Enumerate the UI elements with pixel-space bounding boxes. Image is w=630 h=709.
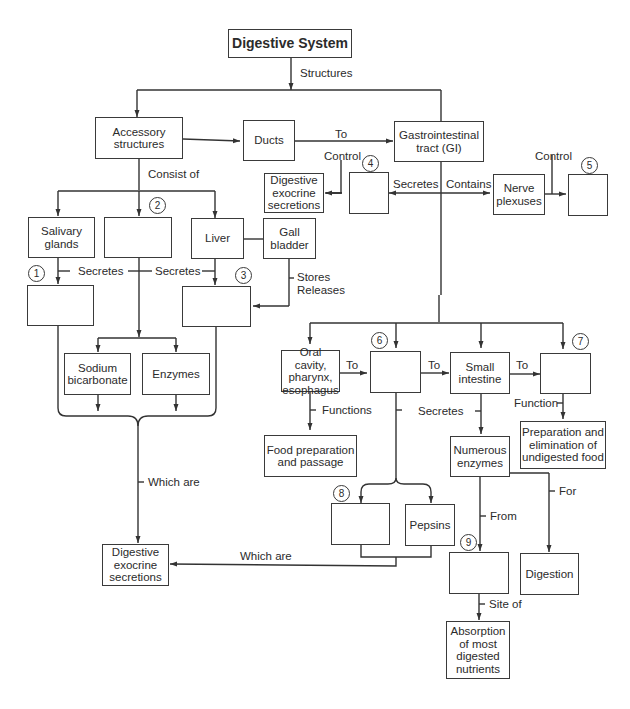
label-which-are-2: Which are <box>240 550 292 563</box>
blank-box-1[interactable] <box>27 285 94 326</box>
blank-box-6[interactable] <box>370 351 421 393</box>
gi-tract-node: Gastrointestinal tract (GI) <box>394 121 484 162</box>
digestive-exocrine-secretions-bottom-node: Digestive exocrine secretions <box>102 544 169 586</box>
blank-box-8[interactable] <box>331 503 390 545</box>
label-which-are-1: Which are <box>148 476 200 489</box>
oral-cavity-node: Oral cavity, pharynx, esophagus <box>281 350 340 392</box>
number-badge-4: 4 <box>362 155 379 172</box>
number-badge-9: 9 <box>460 534 477 551</box>
liver-node: Liver <box>191 218 244 259</box>
gall-bladder-node: Gall bladder <box>263 218 316 259</box>
label-secretes-gi: Secretes <box>393 178 438 191</box>
small-intestine-node: Small intestine <box>450 352 510 394</box>
label-function: Function <box>514 397 558 410</box>
label-control-5: Control <box>535 150 572 163</box>
digestion-node: Digestion <box>520 553 579 595</box>
blank-box-7[interactable] <box>540 353 591 394</box>
blank-box-3[interactable] <box>182 286 251 327</box>
label-contains: Contains <box>446 178 491 191</box>
label-to-small: To <box>428 359 440 372</box>
number-badge-2: 2 <box>149 197 166 214</box>
food-preparation-node: Food preparation and passage <box>264 435 357 477</box>
preparation-elimination-node: Preparation and elimination of undigeste… <box>520 421 606 469</box>
label-to-7: To <box>516 359 528 372</box>
pepsins-node: Pepsins <box>405 504 455 546</box>
root-node: Digestive System <box>228 29 352 58</box>
label-control-4: Control <box>324 150 361 163</box>
label-to-6: To <box>346 359 358 372</box>
number-badge-8: 8 <box>333 485 350 502</box>
label-structures: Structures <box>300 67 352 80</box>
label-secretes-1: Secretes <box>78 265 123 278</box>
label-consist-of: Consist of <box>148 168 199 181</box>
accessory-structures-node: Accessory structures <box>95 117 183 159</box>
salivary-glands-node: Salivary glands <box>28 217 95 258</box>
label-secretes-small: Secretes <box>418 405 463 418</box>
blank-box-5[interactable] <box>568 174 608 216</box>
absorption-node: Absorption of most digested nutrients <box>446 621 510 679</box>
ducts-node: Ducts <box>243 120 295 161</box>
sodium-bicarbonate-node: Sodium bicarbonate <box>64 353 131 395</box>
digestive-exocrine-secretions-top-node: Digestive exocrine secretions <box>264 173 324 213</box>
label-functions: Functions <box>322 404 372 417</box>
numerous-enzymes-node: Numerous enzymes <box>450 436 510 477</box>
blank-box-2[interactable] <box>104 217 172 258</box>
blank-box-9[interactable] <box>449 552 509 594</box>
number-badge-7: 7 <box>572 333 589 350</box>
label-secretes-2: Secretes <box>155 265 200 278</box>
label-site-of: Site of <box>489 598 522 611</box>
blank-box-4[interactable] <box>349 172 389 214</box>
label-from: From <box>490 510 517 523</box>
label-stores-releases: Stores Releases <box>297 271 345 296</box>
label-to-gi: To <box>335 128 347 141</box>
number-badge-6: 6 <box>371 332 388 349</box>
number-badge-1: 1 <box>28 265 45 282</box>
enzymes-node: Enzymes <box>142 353 210 395</box>
number-badge-3: 3 <box>235 267 252 284</box>
label-for: For <box>559 485 576 498</box>
nerve-plexuses-node: Nerve plexuses <box>493 174 545 215</box>
number-badge-5: 5 <box>581 157 598 174</box>
